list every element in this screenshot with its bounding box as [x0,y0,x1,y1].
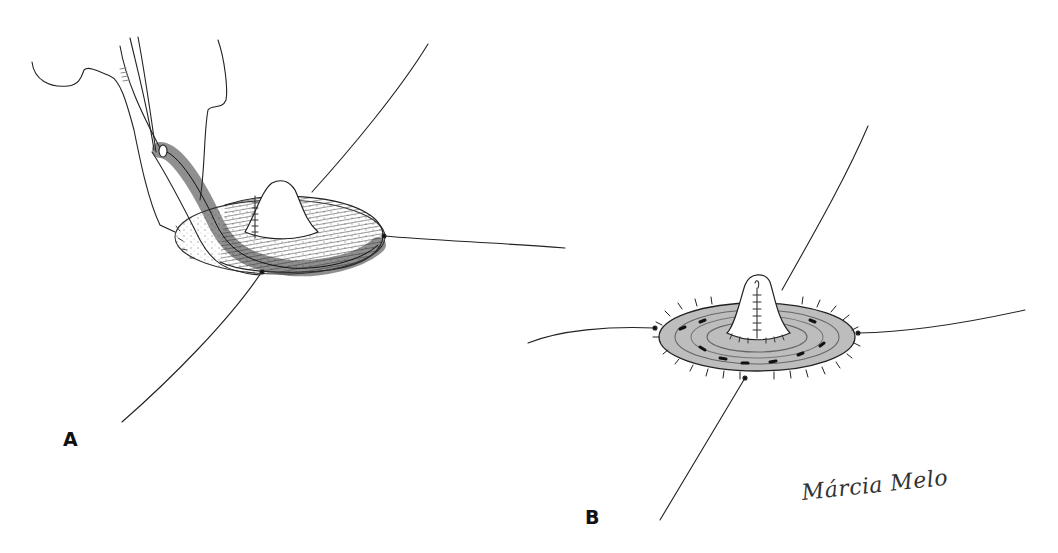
panel-label-b: B [585,508,599,527]
panel-label-a: A [63,430,78,449]
illustration-canvas: A B Márcia Melo [0,0,1058,553]
panel-b-drawing [528,126,1025,520]
panel-a-drawing [32,37,565,422]
